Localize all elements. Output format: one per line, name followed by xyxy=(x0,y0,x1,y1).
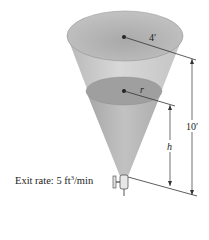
top-radius-label: 4′ xyxy=(149,32,156,43)
exit-rate-label: Exit rate: 5 ft3/min xyxy=(15,174,93,186)
water-radius-label: r xyxy=(140,84,144,95)
arrowhead-up xyxy=(190,59,194,64)
base-leader xyxy=(128,177,197,196)
arrowhead-up-h xyxy=(168,105,172,110)
valve-icon xyxy=(113,175,128,196)
arrowhead-down-h xyxy=(168,181,172,186)
water-height-label: h xyxy=(167,141,172,152)
total-height-label: 10′ xyxy=(186,121,198,132)
